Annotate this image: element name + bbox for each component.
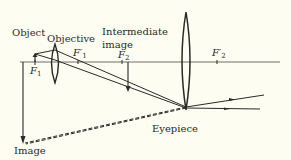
f2-label: F2: [118, 50, 129, 62]
f1-prime-label: F′1: [73, 48, 87, 60]
objective-label: Objective: [47, 34, 95, 44]
intermediate-image-label-1: Intermediate: [102, 27, 168, 37]
f1-label: F1: [30, 66, 41, 78]
object-label: Object: [12, 28, 45, 38]
microscope-ray-diagram: [0, 0, 291, 160]
eyepiece-lens: [182, 12, 190, 110]
eyepiece-label: Eyepiece: [152, 124, 198, 134]
f2-prime-label: F′2: [212, 48, 226, 60]
final-image-arrow: [21, 62, 26, 144]
image-label: Image: [14, 146, 46, 156]
ray-arrowhead: [229, 98, 235, 101]
